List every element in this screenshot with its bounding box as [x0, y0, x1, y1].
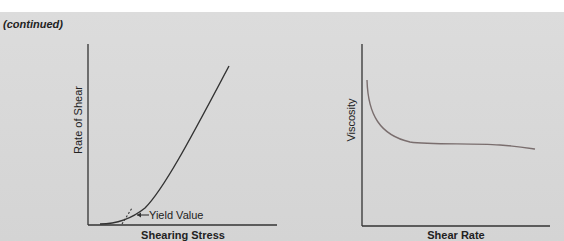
charts-canvas: Yield Value Shearing Stress Rate of Shea… — [0, 0, 564, 241]
right-x-label: Shear Rate — [427, 229, 484, 241]
right-y-label: Viscosity — [345, 98, 357, 142]
yield-extrapolation — [122, 208, 132, 224]
left-y-label: Rate of Shear — [72, 86, 84, 154]
left-x-label: Shearing Stress — [141, 229, 225, 241]
viscosity-curve — [367, 80, 535, 149]
flow-curve — [100, 66, 229, 224]
yield-value-annotation: Yield Value — [149, 209, 203, 221]
left-chart: Yield Value Shearing Stress Rate of Shea… — [72, 44, 277, 241]
right-chart: Shear Rate Viscosity — [345, 44, 550, 241]
